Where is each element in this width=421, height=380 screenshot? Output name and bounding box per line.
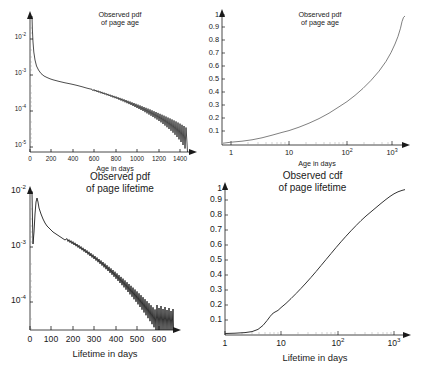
ytick-label: 10-3 — [6, 69, 26, 76]
x-axis-arrow — [173, 327, 181, 333]
panel-bottom-right-plot — [200, 172, 421, 380]
ytick-label: 0.9 — [200, 22, 219, 31]
ytick-label: 0.4 — [200, 87, 219, 96]
xtick-label: 400 — [63, 155, 83, 162]
xtick-label: 600 — [149, 334, 169, 344]
panel-title-line-2: of page age — [60, 19, 180, 27]
xtick-label: 600 — [84, 155, 104, 162]
ytick-label: 0.7 — [200, 48, 219, 57]
figure-four-panel-distributions: Observed pdf of page age 10-2 10-3 10-4 … — [0, 0, 421, 380]
panel-title-line-2: of page lifetime — [245, 182, 380, 194]
xtick-label: 300 — [84, 334, 104, 344]
ytick-label: 0.5 — [200, 74, 219, 83]
ytick-label: 0.1 — [200, 126, 219, 135]
panel-title-bottom-right: Observed cdf of page lifetime — [245, 170, 380, 193]
ytick-label: 10-3 — [2, 240, 26, 250]
ytick-label: 0.3 — [200, 284, 222, 294]
panel-observed-pdf-page-age-cumulative: Observed pdf of page age 1 0.9 0.8 0.7 0… — [200, 0, 421, 172]
ytick-label: 0.6 — [200, 61, 219, 70]
xtick-label: 400 — [106, 334, 126, 344]
xtick-label: 102 — [337, 148, 357, 157]
panel-title-bottom-left: Observed pdf of page lifetime — [55, 171, 185, 194]
xtick-label: 800 — [106, 155, 126, 162]
ytick-label: 0.2 — [200, 113, 219, 122]
xtick-label: 103 — [382, 148, 402, 157]
xtick-label: 1 — [221, 148, 241, 157]
x-axis-arrow — [403, 332, 411, 338]
xtick-label: 10 — [279, 148, 299, 157]
panel-observed-cdf-page-lifetime: Observed cdf of page lifetime 1 0.9 0.8 … — [200, 172, 421, 380]
panel-title-line-2: of page age — [260, 19, 380, 27]
ytick-label: 10-2 — [2, 185, 26, 195]
ytick-label: 1 — [200, 183, 222, 193]
ytick-label: 0.1 — [200, 314, 222, 324]
xtick-label: 200 — [41, 155, 61, 162]
ytick-label: 10-4 — [6, 105, 26, 112]
curve-pdf-page-lifetime — [32, 192, 174, 330]
ytick-label: 0.2 — [200, 299, 222, 309]
ytick-label: 10-2 — [6, 33, 26, 40]
panel-observed-pdf-page-lifetime: Observed pdf of page lifetime 10-2 10-3 … — [0, 172, 205, 380]
panel-title-line-2: of page lifetime — [55, 183, 185, 195]
xtick-label: 1000 — [127, 155, 147, 162]
panel-observed-pdf-page-age: Observed pdf of page age 10-2 10-3 10-4 … — [0, 0, 205, 172]
panel-title-line-1: Observed pdf — [55, 171, 185, 183]
xtick-label: 103 — [384, 338, 404, 348]
x-axis-arrow — [189, 149, 197, 155]
ytick-label: 0.8 — [200, 209, 222, 219]
panel-title-top-left: Observed pdf of page age — [60, 11, 180, 28]
ytick-label: 0.8 — [200, 35, 219, 44]
panel-title-line-1: Observed cdf — [245, 170, 380, 182]
xtick-label: 0 — [20, 334, 40, 344]
x-axis-label: Lifetime in days — [45, 348, 165, 359]
ytick-label: 10-4 — [2, 295, 26, 305]
xtick-label: 1400 — [170, 155, 190, 162]
x-axis-label: Lifetime in days — [255, 352, 375, 363]
curve-pdf-page-age — [32, 16, 188, 152]
xtick-label: 200 — [63, 334, 83, 344]
ytick-label: 0.6 — [200, 239, 222, 249]
xtick-label: 100 — [41, 334, 61, 344]
xtick-label: 102 — [328, 338, 348, 348]
x-axis-label: Age in days — [262, 159, 372, 168]
panel-title-top-right: Observed pdf of page age — [260, 11, 380, 28]
ytick-label: 1 — [200, 10, 219, 19]
ytick-label: 0.3 — [200, 100, 219, 109]
x-axis-arrow — [402, 142, 410, 148]
xtick-label: 1 — [215, 338, 235, 348]
curve-cdf-page-lifetime — [225, 190, 405, 334]
curve-cdf-page-age — [223, 16, 405, 143]
ytick-label: 10-5 — [6, 141, 26, 148]
xtick-label: 0 — [20, 155, 40, 162]
ytick-label: 0.7 — [200, 224, 222, 234]
ytick-label: 0.4 — [200, 269, 222, 279]
ytick-label: 0.9 — [200, 194, 222, 204]
xtick-label: 10 — [271, 338, 291, 348]
xtick-label: 500 — [127, 334, 147, 344]
xtick-label: 1200 — [149, 155, 169, 162]
ytick-label: 0.5 — [200, 254, 222, 264]
y-axis-arrow — [219, 9, 225, 17]
